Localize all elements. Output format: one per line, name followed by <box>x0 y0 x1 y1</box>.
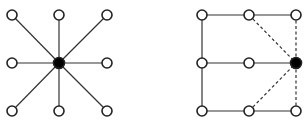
edge <box>59 15 107 63</box>
dashed-edge <box>249 15 296 63</box>
node <box>291 106 301 116</box>
node <box>54 106 64 116</box>
dashed-edge <box>249 63 296 111</box>
node <box>102 10 112 20</box>
node <box>54 10 64 20</box>
center-node <box>291 58 302 69</box>
node <box>197 58 207 68</box>
grid-graph <box>197 10 302 116</box>
node <box>7 58 17 68</box>
center-node <box>54 58 65 69</box>
node <box>197 106 207 116</box>
edge <box>12 15 59 63</box>
node <box>7 106 17 116</box>
node <box>244 58 254 68</box>
edge <box>12 63 59 111</box>
node <box>102 106 112 116</box>
node <box>102 58 112 68</box>
node <box>291 10 301 20</box>
node <box>197 10 207 20</box>
node <box>7 10 17 20</box>
node <box>244 106 254 116</box>
edge <box>59 63 107 111</box>
node <box>244 10 254 20</box>
star-graph <box>7 10 112 116</box>
diagram-canvas <box>0 0 306 129</box>
